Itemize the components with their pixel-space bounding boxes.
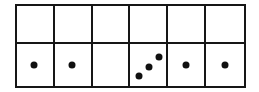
cell-top-5 bbox=[168, 6, 206, 44]
dot bbox=[155, 53, 162, 60]
cell-top-6 bbox=[206, 6, 244, 44]
dot bbox=[135, 73, 142, 80]
cell-top-2 bbox=[55, 6, 93, 44]
dot bbox=[146, 63, 153, 70]
cell-bottom-4 bbox=[130, 44, 168, 86]
cell-top-3 bbox=[93, 6, 131, 44]
dot bbox=[183, 61, 190, 68]
dot-grid-table bbox=[15, 4, 246, 88]
cell-bottom-6 bbox=[206, 44, 244, 86]
cell-bottom-1 bbox=[17, 44, 55, 86]
cell-top-4 bbox=[130, 6, 168, 44]
worksheet-fragment bbox=[0, 0, 259, 92]
cell-bottom-3 bbox=[93, 44, 131, 86]
cell-top-1 bbox=[17, 6, 55, 44]
dot bbox=[222, 61, 229, 68]
cell-bottom-2 bbox=[55, 44, 93, 86]
dot bbox=[31, 61, 38, 68]
cell-bottom-5 bbox=[168, 44, 206, 86]
dot bbox=[69, 61, 76, 68]
